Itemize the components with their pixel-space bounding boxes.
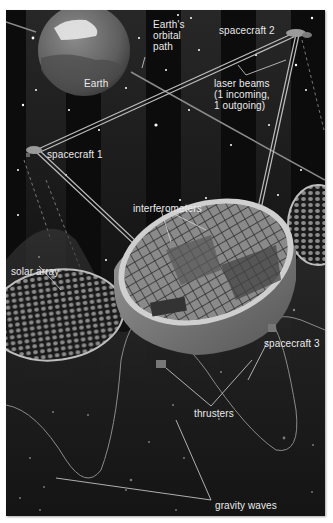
label-earth: Earth bbox=[84, 78, 108, 89]
label-laser-beams: laser beams (1 incoming, 1 outgoing) bbox=[214, 78, 270, 111]
diagram-illustration bbox=[6, 10, 325, 516]
label-thrusters: thrusters bbox=[194, 408, 234, 419]
label-gravity-waves: gravity waves bbox=[215, 500, 277, 511]
label-spacecraft-3: spacecraft 3 bbox=[264, 338, 320, 349]
label-solar-array: solar array bbox=[11, 266, 59, 277]
label-earth-orbital-path: Earth's orbital path bbox=[153, 19, 185, 52]
label-spacecraft-1: spacecraft 1 bbox=[47, 149, 103, 160]
label-interferometers: interferometers bbox=[133, 203, 202, 214]
label-spacecraft-2: spacecraft 2 bbox=[219, 25, 275, 36]
diagram-panel: Earth's orbital path spacecraft 2 Earth … bbox=[6, 10, 325, 516]
